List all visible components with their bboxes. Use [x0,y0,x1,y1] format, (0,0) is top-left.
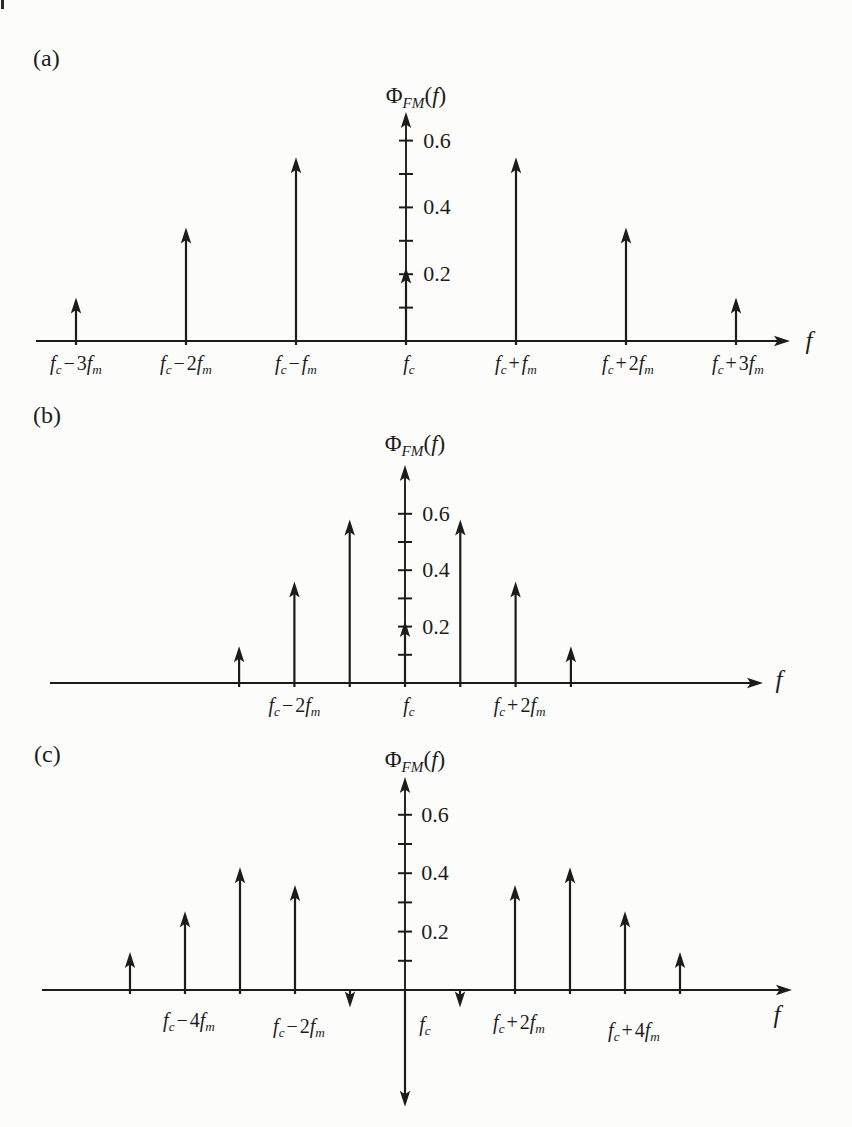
y-tick-label: 0.2 [421,921,449,943]
frequency-label: fc [419,1014,430,1034]
panel-label-b: (b) [33,403,61,427]
panel-c-plot [42,777,792,1107]
frequency-label: fc [403,695,414,715]
frequency-label: fc + 2fm [494,695,546,715]
y-tick-label: 0.6 [422,503,450,525]
frequency-label: fc + 2fm [602,353,654,373]
y-axis-title: ΦFM(f) [386,84,446,107]
x-axis-label: f [774,1002,781,1027]
y-tick-label: 0.6 [423,130,451,152]
frequency-label: fc − 2fm [160,353,212,373]
panel-b-plot [50,465,763,688]
frequency-label: fc + 4fm [608,1020,660,1040]
y-axis-title: ΦFM(f) [385,432,445,455]
frequency-label: fc + fm [495,353,537,373]
x-axis-label: f [776,667,783,692]
frequency-label: fc − 2fm [268,695,320,715]
x-axis-label: f [806,328,813,353]
y-tick-label: 0.4 [423,196,451,218]
frequency-label: fc + 3fm [712,353,764,373]
panel-label-a: (a) [33,46,60,70]
y-tick-label: 0.4 [421,862,449,884]
frequency-label: fc − 3fm [50,353,102,373]
fm-spectra-figure: fc − 3fmfc − 2fmfc − fmfcfc + fmfc + 2fm… [0,0,852,1127]
panel-a-plot [36,112,790,346]
frequency-label: fc [403,353,414,373]
y-tick-label: 0.4 [422,559,450,581]
panel-label-c: (c) [34,742,61,766]
y-tick-label: 0.2 [423,263,451,285]
frequency-label: fc − fm [275,353,317,373]
y-axis-title: ΦFM(f) [385,748,445,771]
y-tick-label: 0.2 [422,616,450,638]
frequency-label: fc − 2fm [273,1016,325,1036]
y-tick-label: 0.6 [421,804,449,826]
frequency-label: fc + 2fm [493,1012,545,1032]
frequency-label: fc − 4fm [163,1010,215,1030]
